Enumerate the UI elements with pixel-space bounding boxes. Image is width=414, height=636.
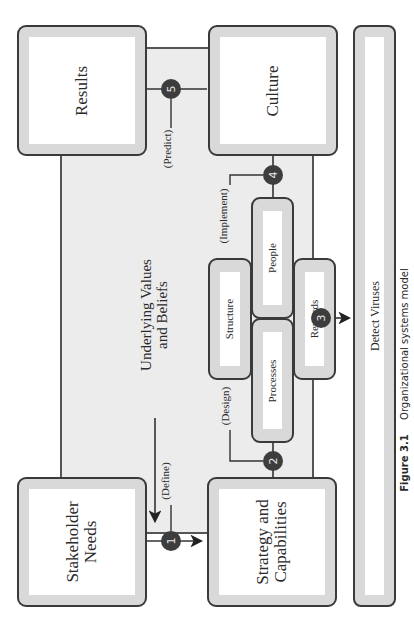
processes-box: Processes <box>251 318 294 443</box>
people-label: People <box>267 243 279 273</box>
underlying-values-label: Underlying Values and Beliefs <box>125 250 185 380</box>
stakeholder-needs-label: Stakeholder Needs <box>64 501 100 582</box>
step-2-badge: 2 <box>263 451 283 471</box>
people-box: People <box>251 197 294 319</box>
structure-label: Structure <box>224 299 236 339</box>
step-5-badge: 5 <box>161 79 181 99</box>
results-label: Results <box>73 65 91 115</box>
results-box: Results <box>17 25 147 156</box>
predict-label: (Predict) <box>161 130 173 168</box>
step-4-badge: 4 <box>263 165 283 185</box>
processes-label: Processes <box>267 359 279 402</box>
stakeholder-needs-box: Stakeholder Needs <box>17 477 147 607</box>
detect-viruses-bar: Detect Viruses <box>353 25 396 607</box>
caption-text: Organizational systems model <box>399 268 410 420</box>
structure-box: Structure <box>208 258 252 380</box>
strategy-capabilities-label: Strategy and Capabilities <box>254 499 290 584</box>
step-1-badge: 1 <box>161 531 181 551</box>
culture-label: Culture <box>264 65 282 116</box>
define-label: (Define) <box>159 462 171 499</box>
design-label: (Design) <box>219 387 231 426</box>
detect-viruses-label: Detect Viruses <box>368 281 381 351</box>
figure-caption: Figure 3.1 Organizational systems model <box>396 250 414 510</box>
step-3-badge: 3 <box>311 308 331 328</box>
caption-figure-number: Figure 3.1 <box>399 434 410 491</box>
culture-box: Culture <box>208 25 338 156</box>
implement-label: (Implement) <box>217 189 229 244</box>
strategy-capabilities-box: Strategy and Capabilities <box>207 477 337 607</box>
